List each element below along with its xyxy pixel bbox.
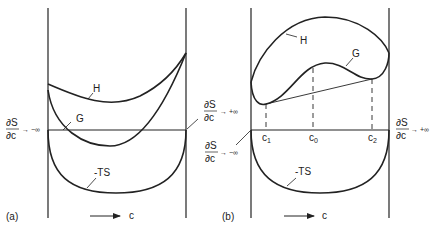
right-limit-num: ∂S [204,99,216,110]
g-label: G [352,48,360,59]
common-tangent [266,79,372,104]
c-axis-label: c [129,210,134,221]
panel-b-label: (b) [222,211,234,222]
ts-leader [87,178,96,188]
left-limit-num: ∂S [6,117,18,128]
panel-b: H G -TS c1 c0 c2 ∂S ∂c → −∞ ∂S ∂c → +∞ (… [205,8,429,222]
free-energy-diagram: H G -TS ∂S ∂c → −∞ ∂S ∂c → +∞ (a) c [0,0,441,230]
left-limit-den: ∂c [6,130,16,141]
left-limit-arrow: → −∞ [220,149,238,156]
entropy-curve [48,130,186,193]
panel-a: H G -TS ∂S ∂c → −∞ ∂S ∂c → +∞ (a) c [6,8,238,222]
enthalpy-curve [251,17,389,82]
left-limit-arrow: → −∞ [22,126,40,133]
h-label: H [300,35,307,46]
right-limit-den: ∂c [396,130,406,141]
left-limit-num: ∂S [205,140,217,151]
ts-label: -TS [94,167,110,178]
left-limit-leader [236,131,250,145]
g-label: G [76,113,84,124]
g-leader [346,58,353,66]
c1-label: c1 [262,132,271,144]
h-label: H [93,83,100,94]
left-limit-den: ∂c [205,153,215,164]
enthalpy-curve [48,53,186,102]
right-limit-arrow: → +∞ [411,126,429,133]
c2-label: c2 [368,132,377,144]
c-axis-label: c [322,210,327,221]
right-limit-den: ∂c [204,112,214,123]
right-limit-num: ∂S [396,117,408,128]
ts-leader [287,178,296,186]
c0-label: c0 [309,132,318,144]
right-limit-arrow: → +∞ [220,108,238,115]
ts-label: -TS [295,166,311,177]
gibbs-curve [48,53,186,146]
right-limit-leader [187,119,198,129]
h-leader [286,34,297,37]
panel-a-label: (a) [6,211,18,222]
gibbs-curve [251,53,389,104]
